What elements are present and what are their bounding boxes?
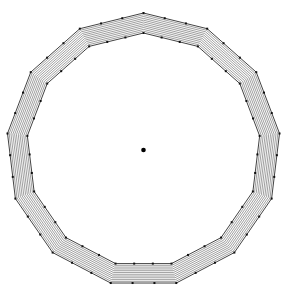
vertex-marker — [74, 58, 76, 60]
vertex-marker — [259, 135, 261, 137]
vertex-marker — [44, 206, 46, 208]
vertex-marker — [263, 92, 265, 94]
polygon-ring-diagram — [0, 0, 288, 300]
vertex-marker — [52, 252, 54, 254]
vertex-marker — [60, 70, 62, 72]
vertex-marker — [71, 262, 73, 264]
vertex-marker — [29, 153, 31, 155]
center-point-marker — [141, 148, 146, 153]
vertex-marker — [223, 42, 225, 44]
vertex-marker — [88, 45, 90, 47]
vertex-marker — [164, 17, 166, 19]
vertex-marker — [273, 176, 275, 178]
vertex-marker — [239, 57, 241, 59]
vertex-marker — [153, 282, 155, 284]
vertex-marker — [12, 176, 14, 178]
vertex-marker — [179, 41, 181, 43]
vertex-marker — [9, 154, 11, 156]
vertex-marker — [225, 70, 227, 72]
vertex-marker — [185, 22, 187, 24]
vertex-marker — [100, 22, 102, 24]
vertex-marker — [187, 254, 189, 256]
vertex-marker — [239, 83, 241, 85]
vertex-marker — [110, 282, 112, 284]
center-marker-group — [141, 148, 146, 153]
vertex-marker — [195, 272, 197, 274]
vertex-marker — [254, 172, 256, 174]
vertex-marker — [233, 252, 235, 254]
vertex-marker — [204, 245, 206, 247]
vertex-marker — [33, 190, 35, 192]
vertex-marker — [214, 262, 216, 264]
vertex-marker — [276, 154, 278, 156]
vertex-marker — [143, 32, 145, 34]
vertex-marker — [161, 36, 163, 38]
vertex-marker — [241, 206, 243, 208]
vertex-marker — [14, 112, 16, 114]
vertex-marker — [31, 172, 33, 174]
vertex-marker — [54, 221, 56, 223]
vertex-marker — [33, 117, 35, 119]
vertex-marker — [121, 17, 123, 19]
vertex-marker — [197, 45, 199, 47]
figure-canvas — [0, 0, 288, 300]
vertex-marker — [246, 234, 248, 236]
vertex-marker — [40, 100, 42, 102]
vertex-marker — [62, 42, 64, 44]
vertex-marker — [81, 245, 83, 247]
vertex-marker — [245, 100, 247, 102]
vertex-marker — [90, 272, 92, 274]
vertex-marker — [271, 112, 273, 114]
vertex-marker — [39, 234, 41, 236]
vertex-marker — [115, 263, 117, 265]
vertex-marker — [258, 216, 260, 218]
vertex-marker — [65, 237, 67, 239]
vertex-marker — [171, 263, 173, 265]
vertex-marker — [143, 12, 145, 14]
vertex-marker — [271, 198, 273, 200]
vertex-marker — [98, 254, 100, 256]
vertex-marker — [252, 190, 254, 192]
vertex-marker — [279, 132, 281, 134]
vertex-marker — [133, 263, 135, 265]
vertex-marker — [220, 237, 222, 239]
vertex-marker — [27, 216, 29, 218]
vertex-marker — [255, 71, 257, 73]
vertex-marker — [211, 58, 213, 60]
vertex-marker — [252, 117, 254, 119]
vertex-marker — [46, 83, 48, 85]
vertex-marker — [152, 263, 154, 265]
vertex-marker — [124, 36, 126, 38]
vertex-marker — [231, 221, 233, 223]
vertex-marker — [14, 198, 16, 200]
vertex-marker — [7, 132, 9, 134]
vertex-marker — [106, 41, 108, 43]
vertex-marker — [30, 71, 32, 73]
vertex-marker — [132, 282, 134, 284]
vertex-marker — [46, 57, 48, 59]
vertex-marker — [206, 28, 208, 30]
vertex-marker — [22, 92, 24, 94]
vertex-marker — [256, 153, 258, 155]
vertex-marker — [175, 282, 177, 284]
vertex-marker — [26, 135, 28, 137]
vertex-marker — [79, 28, 81, 30]
